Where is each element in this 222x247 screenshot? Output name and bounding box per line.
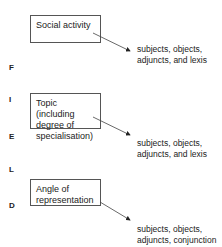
output-line: adjuncts, and lexis bbox=[137, 149, 207, 160]
output-line: subjects, objects, bbox=[137, 138, 207, 149]
output-line: subjects, objects, bbox=[137, 224, 216, 235]
output-text-3: subjects, objects, adjuncts, conjunction bbox=[137, 224, 216, 246]
arrows bbox=[0, 0, 222, 247]
output-line: subjects, objects, bbox=[137, 44, 207, 55]
output-text-2: subjects, objects, adjuncts, and lexis bbox=[137, 138, 207, 160]
output-line: adjuncts, conjunction bbox=[137, 235, 216, 246]
output-line: adjuncts, and lexis bbox=[137, 55, 207, 66]
output-text-1: subjects, objects, adjuncts, and lexis bbox=[137, 44, 207, 66]
